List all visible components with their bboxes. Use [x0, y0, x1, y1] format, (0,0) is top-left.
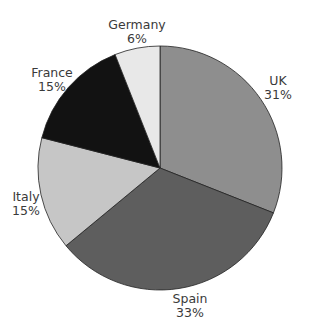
- label-germany: Germany6%: [108, 18, 165, 46]
- label-spain: Spain33%: [173, 292, 208, 320]
- label-italy: Italy15%: [12, 190, 40, 218]
- label-france: France15%: [31, 66, 73, 94]
- label-uk: UK31%: [264, 74, 292, 102]
- pie-chart: [0, 0, 311, 334]
